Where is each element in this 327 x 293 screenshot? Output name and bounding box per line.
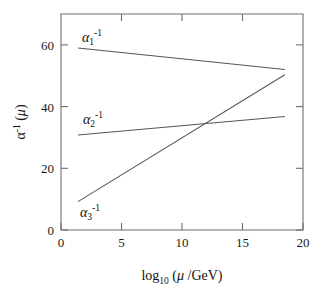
alpha-3-subscript: 3 [87, 212, 92, 222]
alpha-2-superscript: -1 [95, 110, 103, 120]
y-tick-label-40: 40 [41, 100, 54, 115]
figure-container: 0 20 40 60 0 5 10 15 20 α1-1 α2-1 α3-1 α… [0, 0, 327, 293]
y-axis-title-group: α-1 (μ) [12, 104, 29, 139]
x-tick-label-15: 15 [236, 235, 249, 250]
alpha-3-superscript: -1 [92, 203, 100, 213]
y-tick-label-60: 60 [41, 38, 54, 53]
alpha-2-subscript: 2 [90, 119, 95, 129]
x-axis-subscript: 10 [159, 276, 169, 286]
y-tick-label-20: 20 [41, 161, 54, 176]
x-axis-mu: μ [176, 268, 184, 283]
y-tick-label-0: 0 [48, 223, 55, 238]
coupling-unification-chart: 0 20 40 60 0 5 10 15 20 α1-1 α2-1 α3-1 α… [0, 0, 327, 293]
x-axis-log: log [141, 268, 159, 283]
alpha-1-superscript: -1 [94, 28, 102, 38]
x-axis-units: /GeV) [184, 268, 223, 284]
x-tick-label-10: 10 [176, 235, 189, 250]
alpha-1-subscript: 1 [89, 37, 94, 47]
x-tick-label-20: 20 [297, 235, 310, 250]
y-axis-paren-close: ) [13, 104, 29, 109]
x-tick-label-5: 5 [118, 235, 125, 250]
y-axis-mu: μ [13, 109, 28, 117]
y-axis-title: α-1 (μ) [12, 104, 29, 139]
x-tick-label-0: 0 [58, 235, 65, 250]
